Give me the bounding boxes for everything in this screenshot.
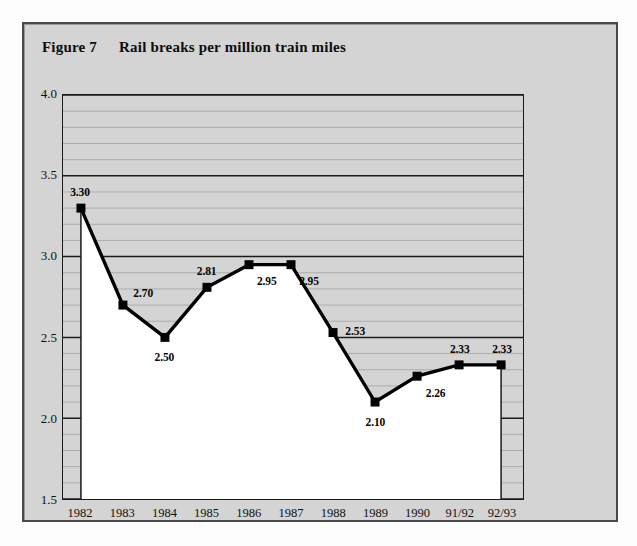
data-point-label: 2.53 [345, 325, 365, 337]
x-tick-label: 1985 [194, 506, 219, 521]
x-tick-label: 91/92 [446, 506, 474, 521]
x-tick-label: 1986 [236, 506, 261, 521]
data-point-label: 2.95 [299, 275, 319, 287]
data-series [63, 95, 523, 499]
chart-container: 1.52.02.53.03.54.0 198219831984198519861… [24, 24, 620, 524]
figure-panel: Figure 7Rail breaks per million train mi… [22, 22, 618, 522]
x-tick-label: 92/93 [488, 506, 516, 521]
data-point-label: 2.10 [366, 416, 386, 428]
data-point-label: 2.81 [197, 265, 217, 277]
y-axis-labels: 1.52.02.53.03.54.0 [24, 94, 60, 500]
x-tick-label: 1984 [152, 506, 177, 521]
data-point-label: 3.30 [70, 186, 90, 198]
y-tick-label: 3.0 [41, 248, 57, 264]
data-point-label: 2.33 [450, 343, 470, 355]
y-tick-label: 2.0 [41, 411, 57, 427]
plot-area [62, 94, 524, 500]
x-tick-label: 1982 [68, 506, 93, 521]
y-tick-label: 4.0 [41, 86, 57, 102]
x-tick-label: 1983 [110, 506, 135, 521]
figure-root: Figure 7Rail breaks per million train mi… [0, 0, 637, 546]
data-point-label: 2.33 [492, 343, 512, 355]
y-tick-label: 2.5 [41, 330, 57, 346]
x-tick-label: 1990 [405, 506, 430, 521]
data-point-label: 2.70 [133, 287, 153, 299]
data-point-label: 2.26 [426, 387, 446, 399]
data-point-label: 2.95 [257, 275, 277, 287]
x-tick-label: 1989 [363, 506, 388, 521]
x-tick-label: 1988 [321, 506, 346, 521]
x-tick-label: 1987 [279, 506, 304, 521]
data-point-label: 2.50 [155, 351, 175, 363]
x-axis-labels: 19821983198419851986198719881989199091/9… [62, 504, 524, 524]
y-tick-label: 1.5 [41, 492, 57, 508]
y-tick-label: 3.5 [41, 167, 57, 183]
